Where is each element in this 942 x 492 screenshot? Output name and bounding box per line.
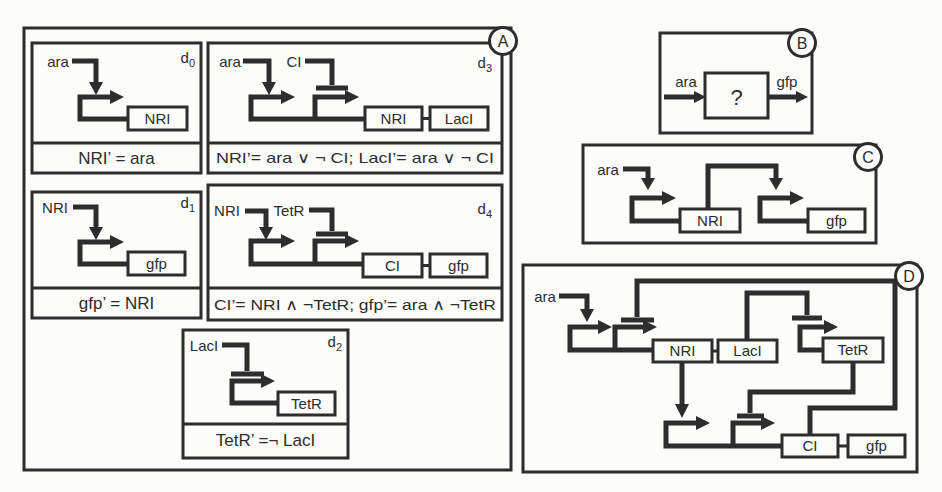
unknown-system-label: ? [730,85,742,110]
activation-arrowhead-icon [89,227,103,240]
output-label-gfp: gfp [777,73,798,90]
promoter-arrowhead-icon [598,320,612,334]
input-label-ara: ara [47,53,69,70]
promoter-arrowhead-icon [110,90,124,104]
promoter-arrowhead-icon [281,234,295,248]
module-d4: NRI TetR CI gfp d4 CI’= NRI ∧ ¬TetR; gfp… [208,185,502,320]
promoter-arrowhead-icon [662,191,676,205]
activation-arrow-icon [73,207,96,227]
formula-d3: NRI’= ara ∨ ¬ CI; LacI’= ara ∨ ¬ CI [216,149,494,166]
gene-label-nri: NRI [145,110,171,127]
module-d0: ara NRI d0 NRI’ = ara [32,43,201,173]
promoter-icon [733,423,761,446]
gene-label-laci: LacI [445,110,473,127]
gene-label-tetr: TetR [291,395,322,412]
promoter-icon [315,97,345,119]
promoter-arrowhead-icon [110,235,124,249]
promoter-arrowhead-icon [345,90,359,104]
circuit-figure: ara NRI d0 NRI’ = ara ara CI NRI [0,0,942,492]
activation-arrowhead-icon [641,178,655,190]
promoter-arrowhead-icon [696,416,710,430]
formula-d1: gfp’ = NRI [79,294,154,313]
promoter-icon [615,327,643,350]
input-label-tetr: TetR [274,202,305,219]
gene-label-gfp: gfp [866,437,887,454]
promoter-icon [800,327,824,350]
promoter-icon [80,97,128,119]
panel-a-letter: A [498,33,509,50]
gene-label-laci: LacI [733,342,761,359]
module-d2-tag: d2 [328,333,342,353]
activation-arrow-icon [623,169,648,178]
module-d3-tag: d3 [478,54,492,74]
module-d4-tag: d4 [478,200,492,220]
gene-label-nri: NRI [670,342,696,359]
input-label-ara: ara [534,288,556,305]
promoter-arrowhead-icon [281,90,295,104]
gene-label-nri: NRI [381,110,407,127]
repression-wire-icon [222,345,247,371]
gene-label-gfp: gfp [448,257,469,274]
panel-c-letter: C [862,149,874,166]
promoter-icon [315,241,345,264]
promoter-arrowhead-icon [345,234,359,248]
input-label-nri: NRI [214,202,240,219]
gene-label-tetr: TetR [838,341,869,358]
promoter-icon [570,327,653,350]
input-label-ara: ara [675,73,697,90]
gene-label-gfp: gfp [146,255,167,272]
panel-b: ara ? gfp B [660,30,816,134]
input-label-laci: LacI [190,337,218,354]
output-arrowhead-icon [796,91,808,103]
promoter-icon [80,242,128,264]
formula-d4: CI’= NRI ∧ ¬TetR; gfp’= ara ∧ ¬TetR [214,296,496,313]
activation-arrowhead-icon [580,309,594,322]
figure-canvas: ara NRI d0 NRI’ = ara ara CI NRI [0,0,942,492]
module-d2: LacI TetR d2 TetR’ =¬ LacI [183,330,348,458]
panel-b-letter: B [797,35,808,52]
activation-arrow-icon [72,61,96,82]
formula-d2: TetR’ =¬ LacI [216,431,316,450]
activation-arrowhead-icon [89,82,103,95]
promoter-arrowhead-icon [824,320,838,334]
feedback-activation-wire [708,166,776,209]
gene-label-nri: NRI [697,212,723,229]
promoter-icon [760,198,808,221]
gene-label-gfp: gfp [826,212,847,229]
module-d1: NRI gfp d1 gfp’ = NRI [32,192,201,318]
input-label-ci: CI [287,53,302,70]
panel-a: ara NRI d0 NRI’ = ara ara CI NRI [24,28,517,471]
input-label-nri: NRI [42,199,68,216]
promoter-icon [232,381,278,403]
formula-d0: NRI’ = ara [78,149,155,168]
gene-label-ci: CI [385,257,400,274]
activation-arrow-icon [559,296,587,309]
module-d0-tag: d0 [181,49,195,69]
promoter-icon [632,198,680,221]
panel-d-letter: D [903,268,915,285]
activation-arrowhead-icon [675,404,689,418]
input-label-ara: ara [219,53,241,70]
repression-wire-icon [305,61,332,85]
activation-arrowhead-icon [769,178,783,190]
promoter-arrowhead-icon [261,374,275,388]
activation-arrowhead-icon [262,82,276,95]
panel-d: ara NRI LacI TetR CI [523,263,923,473]
activation-arrowhead-icon [259,227,273,240]
activation-arrow-icon [243,61,269,82]
module-d1-tag: d1 [181,194,195,214]
panel-c: ara NRI gfp C [583,144,882,244]
repression-wire-icon [309,210,332,231]
input-label-ara: ara [597,161,619,178]
promoter-arrowhead-icon [790,191,804,205]
promoter-arrowhead-icon [761,416,775,430]
module-d3: ara CI NRI LacI d3 NRI’= ara ∨ ¬ CI; Lac… [208,43,502,173]
activation-arrow-icon [245,211,266,227]
tetr-repression-wire [750,362,853,413]
gene-label-ci: CI [803,437,818,454]
